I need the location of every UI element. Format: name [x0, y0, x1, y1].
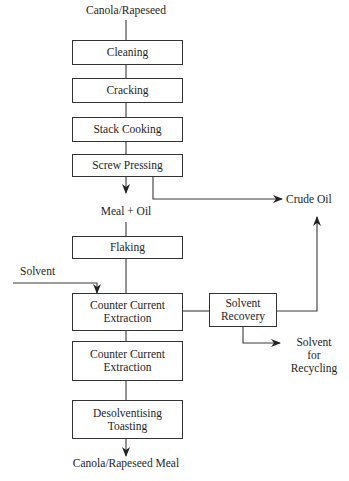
- step-label-line2: Toasting: [108, 420, 147, 433]
- step-label-line2: Recovery: [221, 310, 265, 323]
- step-label: Cleaning: [107, 46, 149, 59]
- output-label-solvent-for-recycling: Solvent for Recycling: [286, 336, 342, 375]
- step-cracking: Cracking: [72, 78, 183, 103]
- step-solvent-recovery: Solvent Recovery: [209, 293, 277, 327]
- step-flaking: Flaking: [72, 236, 183, 259]
- step-desolventising-toasting: Desolventising Toasting: [72, 400, 183, 439]
- output-label-canola-rapeseed-meal: Canola/Rapeseed Meal: [73, 457, 179, 470]
- step-label-line1: Counter Current: [90, 348, 165, 361]
- step-cleaning: Cleaning: [72, 40, 183, 65]
- output-label-crude-oil: Crude Oil: [286, 193, 332, 206]
- step-stack-cooking: Stack Cooking: [72, 117, 183, 142]
- step-label: Cracking: [106, 84, 148, 97]
- output-label-line3: Recycling: [286, 362, 342, 375]
- step-label: Stack Cooking: [93, 123, 161, 136]
- step-label: Screw Pressing: [92, 159, 163, 172]
- step-screw-pressing: Screw Pressing: [72, 154, 183, 177]
- step-label-line2: Extraction: [104, 361, 152, 374]
- step-label-line1: Solvent: [225, 297, 260, 310]
- step-label-line1: Desolventising: [93, 407, 162, 420]
- step-label-line1: Counter Current: [90, 299, 165, 312]
- intermediate-meal-oil: Meal + Oil: [101, 205, 152, 218]
- output-label-line1: Solvent: [286, 336, 342, 349]
- step-counter-current-extraction-1: Counter Current Extraction: [72, 293, 183, 331]
- step-label: Flaking: [110, 241, 145, 254]
- input-label-solvent: Solvent: [20, 265, 55, 278]
- step-counter-current-extraction-2: Counter Current Extraction: [72, 341, 183, 381]
- step-label-line2: Extraction: [104, 312, 152, 325]
- output-label-line2: for: [286, 349, 342, 362]
- input-label-canola-rapeseed: Canola/Rapeseed: [86, 4, 166, 17]
- flowchart: Canola/Rapeseed Cleaning Cracking Stack …: [0, 0, 349, 481]
